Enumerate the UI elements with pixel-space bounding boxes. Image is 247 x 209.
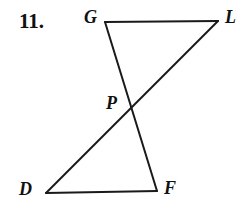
vertex-label-l: L	[225, 8, 236, 26]
vertex-label-g: G	[84, 8, 97, 26]
geometry-diagram	[0, 0, 247, 209]
segment-df	[46, 191, 157, 193]
segment-gl	[105, 21, 218, 22]
vertex-label-f: F	[164, 179, 176, 197]
vertex-label-p: P	[106, 94, 117, 112]
segment-dl	[46, 21, 218, 193]
geometry-figure: 11. G L P D F	[0, 0, 247, 209]
vertex-label-d: D	[19, 180, 32, 198]
